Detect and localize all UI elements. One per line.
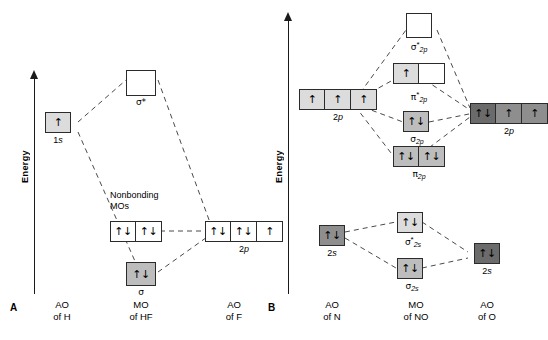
column-heading-line-1: AO bbox=[302, 299, 362, 311]
orbital-box: ↑ bbox=[496, 103, 522, 124]
orbital-label-hf-sigma-star: σ* bbox=[126, 97, 156, 107]
column-heading-line-1: AO bbox=[32, 299, 92, 311]
orbital-label-no-sigma2s: σ2s bbox=[393, 281, 431, 292]
electron-arrows: ↑↓ bbox=[474, 108, 491, 119]
panel-b: Energy B σ*2p ↑ π*2p ↑ bbox=[266, 0, 533, 340]
column-heading-line-1: AO bbox=[457, 299, 517, 311]
column-heading-ao-of-h: AO of H bbox=[32, 299, 92, 323]
orbital-box: ↑ bbox=[299, 89, 325, 110]
orbital-label-h-1s: 1s bbox=[45, 135, 71, 145]
column-heading-line-2: of H bbox=[32, 311, 92, 323]
orbital-label-no-sigma2p: σ2p bbox=[398, 134, 436, 145]
nonbonding-mos-label: Nonbonding MOs bbox=[110, 190, 159, 213]
column-heading-line-2: of NO bbox=[386, 311, 446, 323]
orbital-box: ↑ bbox=[522, 103, 548, 124]
column-heading-line-1: MO bbox=[386, 299, 446, 311]
orbital-level-hf-sigma: ↑↓ bbox=[126, 262, 156, 286]
energy-axis-arrow-b bbox=[284, 12, 292, 21]
orbital-box: ↑↓ bbox=[397, 212, 423, 233]
energy-axis-a bbox=[34, 79, 35, 294]
column-heading-ao-of-n: AO of N bbox=[302, 299, 362, 323]
electron-arrows: ↑ bbox=[308, 94, 317, 105]
orbital-label-o-2s: 2s bbox=[474, 266, 500, 276]
orbital-box: ↑ bbox=[351, 89, 377, 110]
column-heading-line-2: of N bbox=[302, 311, 362, 323]
orbital-box: ↑↓ bbox=[319, 225, 345, 246]
orbital-label-no-pi2p: π2p bbox=[399, 169, 439, 180]
electron-arrows: ↑ bbox=[333, 94, 342, 105]
electron-arrows: ↑↓ bbox=[132, 268, 149, 279]
panel-letter-a: A bbox=[10, 302, 17, 313]
orbital-box: ↑↓ bbox=[470, 103, 496, 124]
orbital-label-no-sigma2s-star: σ*2s bbox=[393, 235, 433, 248]
orbital-box: ↑↓ bbox=[419, 146, 445, 167]
orbital-level-no-sigma2p: ↑↓ bbox=[403, 111, 429, 132]
orbital-box: ↑↓ bbox=[126, 262, 156, 286]
orbital-box: ↑↓ bbox=[136, 221, 162, 242]
electron-arrows: ↑↓ bbox=[478, 248, 495, 259]
column-heading-line-2: of F bbox=[204, 311, 264, 323]
orbital-label-o-2p: 2p bbox=[470, 126, 548, 136]
orbital-box bbox=[406, 13, 432, 38]
orbital-level-o-2p: ↑↓ ↑ ↑ bbox=[470, 103, 548, 124]
electron-arrows: ↑ bbox=[359, 94, 368, 105]
electron-arrows: ↑↓ bbox=[401, 263, 418, 274]
energy-axis-arrow-a bbox=[30, 70, 38, 79]
electron-arrows: ↑↓ bbox=[401, 217, 418, 228]
orbital-box: ↑ bbox=[45, 112, 71, 133]
energy-axis-label-a: Energy bbox=[20, 150, 30, 183]
orbital-label-no-pi2p-star: π*2p bbox=[397, 90, 441, 103]
column-heading-line-1: AO bbox=[204, 299, 264, 311]
orbital-level-o-2s: ↑↓ bbox=[474, 243, 500, 264]
orbital-level-no-pi2p: ↑↓ ↑↓ bbox=[393, 146, 445, 167]
electron-arrows: ↑↓ bbox=[397, 151, 414, 162]
orbital-box: ↑↓ bbox=[403, 111, 429, 132]
orbital-label-hf-sigma: σ bbox=[126, 287, 156, 297]
column-heading-mo-of-hf: MO of HF bbox=[111, 299, 171, 323]
column-heading-ao-of-f: AO of F bbox=[204, 299, 264, 323]
orbital-level-n-2p: ↑ ↑ ↑ bbox=[299, 89, 377, 110]
orbital-box: ↑ bbox=[325, 89, 351, 110]
orbital-box: ↑↓ bbox=[205, 221, 231, 242]
column-heading-line-2: of HF bbox=[111, 311, 171, 323]
orbital-box: ↑↓ bbox=[231, 221, 257, 242]
orbital-level-no-sigma2s: ↑↓ bbox=[397, 258, 423, 279]
electron-arrows: ↑↓ bbox=[407, 116, 424, 127]
electron-arrows: ↑ bbox=[402, 68, 411, 79]
electron-arrows: ↑↓ bbox=[209, 226, 226, 237]
panel-letter-b: B bbox=[268, 302, 275, 313]
electron-arrows: ↑ bbox=[530, 108, 539, 119]
orbital-level-hf-sigma-star bbox=[126, 70, 156, 96]
orbital-box: ↑↓ bbox=[397, 258, 423, 279]
orbital-box bbox=[419, 63, 445, 84]
orbital-label-n-2p: 2p bbox=[299, 112, 377, 122]
column-heading-line-2: of O bbox=[457, 311, 517, 323]
column-heading-ao-of-o: AO of O bbox=[457, 299, 517, 323]
orbital-level-hf-nonbonding: ↑↓ ↑↓ bbox=[110, 221, 162, 242]
orbital-label-n-2s: 2s bbox=[319, 248, 345, 258]
electron-arrows: ↑↓ bbox=[114, 226, 131, 237]
orbital-level-n-2s: ↑↓ bbox=[319, 225, 345, 246]
orbital-box: ↑↓ bbox=[110, 221, 136, 242]
nonbonding-line-2: MOs bbox=[110, 201, 159, 212]
orbital-box: ↑↓ bbox=[474, 243, 500, 264]
orbital-level-no-sigma2p-star bbox=[406, 13, 432, 38]
electron-arrows: ↑↓ bbox=[423, 151, 440, 162]
orbital-level-h-1s: ↑ bbox=[45, 112, 71, 133]
column-heading-mo-of-no: MO of NO bbox=[386, 299, 446, 323]
orbital-box bbox=[126, 70, 156, 96]
electron-arrows: ↑ bbox=[504, 108, 513, 119]
orbital-box: ↑↓ bbox=[393, 146, 419, 167]
orbital-level-no-sigma2s-star: ↑↓ bbox=[397, 212, 423, 233]
orbital-box: ↑ bbox=[393, 63, 419, 84]
electron-arrows: ↑↓ bbox=[323, 230, 340, 241]
column-heading-line-1: MO bbox=[111, 299, 171, 311]
electron-arrows: ↑↓ bbox=[140, 226, 157, 237]
energy-axis-b bbox=[288, 21, 289, 294]
nonbonding-line-1: Nonbonding bbox=[110, 190, 159, 201]
orbital-level-no-pi2p-star: ↑ bbox=[393, 63, 445, 84]
energy-axis-label-b: Energy bbox=[274, 150, 284, 183]
electron-arrows: ↑↓ bbox=[235, 226, 252, 237]
orbital-label-no-sigma2p-star: σ*2p bbox=[398, 40, 440, 53]
